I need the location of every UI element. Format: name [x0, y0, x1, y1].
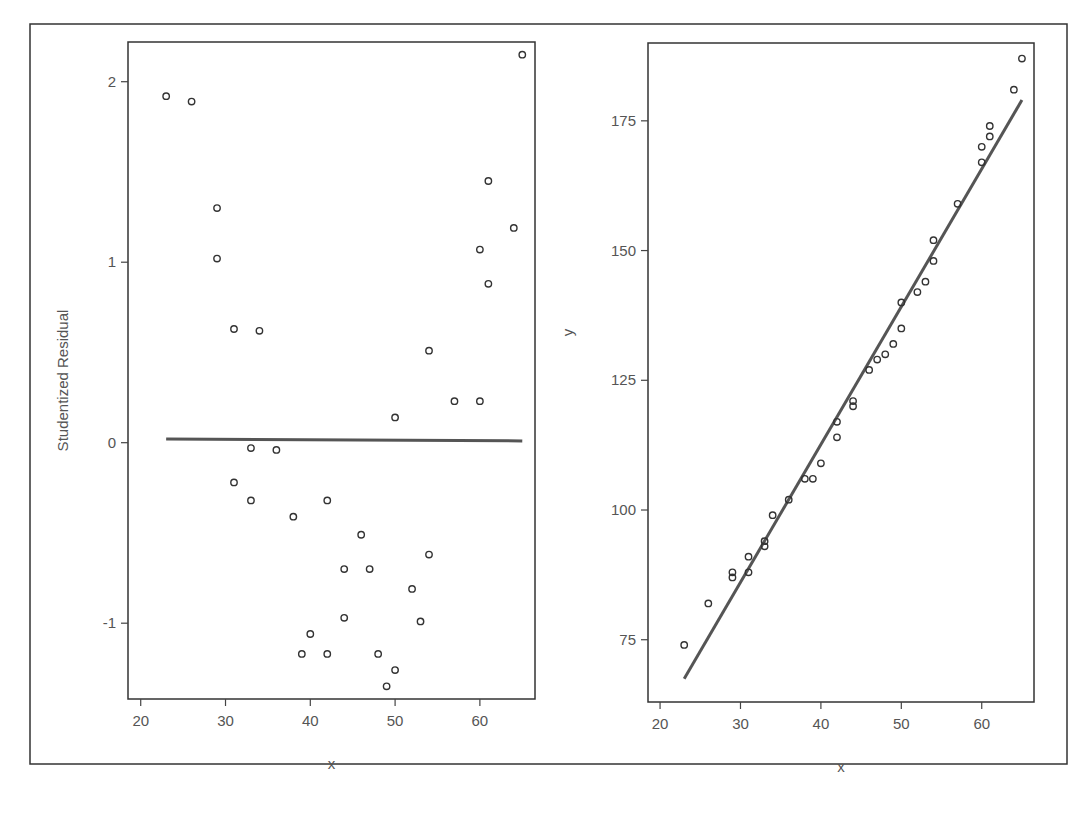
fit-line [684, 100, 1022, 679]
data-point-marker [231, 479, 237, 485]
residual-plot-y-axis: -1012 [103, 73, 128, 631]
y-tick-label: -1 [103, 614, 116, 631]
data-point-marker [930, 258, 936, 264]
x-tick-label: 30 [217, 712, 234, 729]
data-point-marker [987, 123, 993, 129]
residual-plot-x-axis: 2030405060 [132, 699, 488, 729]
data-point-marker [914, 289, 920, 295]
data-point-marker [874, 356, 880, 362]
data-point-marker [324, 497, 330, 503]
y-tick-label: 100 [611, 501, 636, 518]
observed-points [681, 55, 1025, 648]
data-point-marker [426, 347, 432, 353]
data-point-marker [214, 205, 220, 211]
data-point-marker [231, 326, 237, 332]
x-tick-label: 20 [652, 715, 669, 732]
residual-points [163, 51, 526, 689]
data-point-marker [930, 237, 936, 243]
data-point-marker [485, 178, 491, 184]
x-tick-label: 20 [132, 712, 149, 729]
residual-zero-line [166, 439, 522, 441]
data-point-marker [802, 476, 808, 482]
data-point-marker [890, 341, 896, 347]
y-tick-label: 0 [108, 434, 116, 451]
data-point-marker [383, 683, 389, 689]
data-point-marker [511, 225, 517, 231]
y-tick-label: 75 [619, 631, 636, 648]
data-point-marker [417, 618, 423, 624]
data-point-marker [273, 447, 279, 453]
data-point-marker [214, 255, 220, 261]
x-tick-label: 30 [732, 715, 749, 732]
residual-plot-x-label: x [328, 755, 336, 772]
data-point-marker [866, 367, 872, 373]
fit-plot-frame [648, 43, 1034, 702]
data-point-marker [409, 586, 415, 592]
zero-line [166, 439, 522, 441]
data-point-marker [341, 566, 347, 572]
data-point-marker [705, 600, 711, 606]
x-tick-label: 40 [302, 712, 319, 729]
data-point-marker [477, 398, 483, 404]
data-point-marker [769, 512, 775, 518]
data-point-marker [922, 278, 928, 284]
x-tick-label: 60 [973, 715, 990, 732]
x-tick-label: 60 [472, 712, 489, 729]
data-point-marker [341, 615, 347, 621]
data-point-marker [307, 631, 313, 637]
figure-canvas: -1012 2030405060 x Studentized Residual … [0, 0, 1085, 826]
data-point-marker [519, 51, 525, 57]
data-point-marker [898, 325, 904, 331]
residual-plot-frame [128, 42, 535, 699]
y-tick-label: 2 [108, 73, 116, 90]
figure: -1012 2030405060 x Studentized Residual … [0, 0, 1085, 826]
data-point-marker [392, 667, 398, 673]
data-point-marker [745, 554, 751, 560]
data-point-marker [979, 144, 985, 150]
data-point-marker [324, 651, 330, 657]
regression-fit-line [684, 100, 1022, 679]
data-point-marker [248, 445, 254, 451]
data-point-marker [426, 551, 432, 557]
data-point-marker [477, 246, 483, 252]
residual-plot-panel: -1012 2030405060 x Studentized Residual [54, 42, 535, 772]
x-tick-label: 40 [813, 715, 830, 732]
data-point-marker [681, 642, 687, 648]
fit-plot-y-label: y [559, 328, 576, 336]
data-point-marker [1011, 87, 1017, 93]
x-tick-label: 50 [387, 712, 404, 729]
fit-plot-panel: 75100125150175 2030405060 x y [559, 43, 1034, 775]
data-point-marker [1019, 55, 1025, 61]
data-point-marker [375, 651, 381, 657]
y-tick-label: 1 [108, 253, 116, 270]
fit-plot-y-axis: 75100125150175 [611, 112, 648, 648]
data-point-marker [366, 566, 372, 572]
data-point-marker [818, 460, 824, 466]
data-point-marker [987, 133, 993, 139]
data-point-marker [299, 651, 305, 657]
outer-frame [30, 24, 1067, 764]
data-point-marker [290, 514, 296, 520]
data-point-marker [834, 434, 840, 440]
data-point-marker [485, 281, 491, 287]
data-point-marker [882, 351, 888, 357]
data-point-marker [451, 398, 457, 404]
data-point-marker [358, 532, 364, 538]
x-tick-label: 50 [893, 715, 910, 732]
y-tick-label: 175 [611, 112, 636, 129]
data-point-marker [163, 93, 169, 99]
y-tick-label: 150 [611, 242, 636, 259]
data-point-marker [256, 328, 262, 334]
data-point-marker [392, 414, 398, 420]
fit-plot-x-label: x [837, 758, 845, 775]
fit-plot-x-axis: 2030405060 [652, 702, 990, 732]
data-point-marker [248, 497, 254, 503]
data-point-marker [810, 476, 816, 482]
data-point-marker [188, 98, 194, 104]
residual-plot-y-label: Studentized Residual [54, 310, 71, 452]
y-tick-label: 125 [611, 371, 636, 388]
